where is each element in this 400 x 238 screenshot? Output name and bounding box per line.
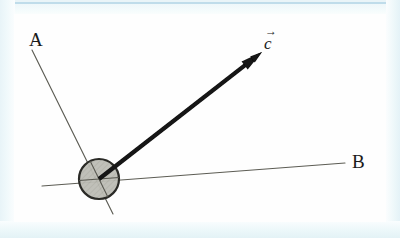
label-line-a-text: A [29,29,43,50]
label-line-b-text: B [352,151,365,172]
diagram-figure [0,0,400,238]
label-vector-c: → c [264,28,276,52]
diagram-screenshot: A B → c [0,0,400,238]
label-line-a: A [29,30,43,49]
vector-c-shaft [99,60,251,179]
label-line-b: B [352,152,365,171]
